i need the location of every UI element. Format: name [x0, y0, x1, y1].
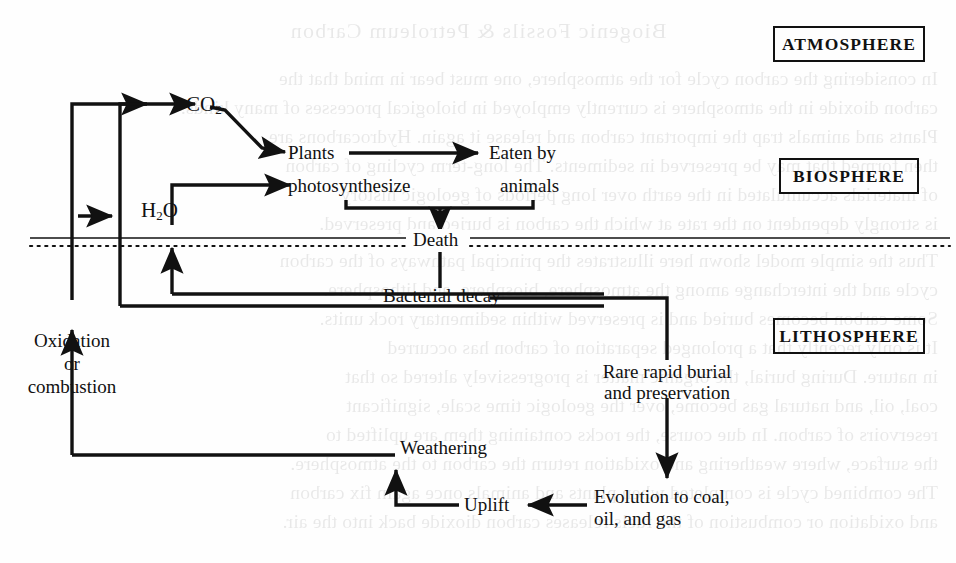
node-co2: CO2 [186, 94, 222, 120]
sphere-box-lithosphere: LITHOSPHERE [773, 318, 925, 354]
bracket-to-death [346, 200, 533, 208]
sphere-box-atmosphere: ATMOSPHERE [773, 26, 925, 62]
flow-uplift-to-weathering [396, 470, 459, 505]
node-rare-rapid-burial-line2: and preservation [577, 382, 757, 403]
node-bacterial-decay: Bacterial decay [383, 285, 501, 306]
sphere-box-biosphere: BIOSPHERE [779, 158, 919, 194]
node-weathering: Weathering [400, 437, 487, 458]
co2-subscript: 2 [215, 102, 222, 117]
node-death: Death [409, 229, 462, 250]
sphere-label-lithosphere: LITHOSPHERE [779, 326, 919, 347]
sphere-label-atmosphere: ATMOSPHERE [782, 34, 916, 55]
node-oxidation-line1: Oxidation [10, 330, 134, 351]
node-evolution-to-coal-line2: oil, and gas [594, 508, 681, 529]
flow-oxidation-to-co2 [72, 104, 147, 300]
node-h2o: H2O [141, 200, 178, 226]
node-eaten-by-animals-line2: animals [500, 175, 559, 196]
node-oxidation-line3: combustion [10, 376, 134, 397]
node-plants: Plants [288, 142, 334, 163]
node-uplift: Uplift [464, 494, 509, 515]
node-photosynthesize: photosynthesize [288, 175, 410, 196]
carbon-cycle-linework [0, 0, 956, 563]
node-rare-rapid-burial-line1: Rare rapid burial [577, 361, 757, 382]
node-evolution-to-coal-line1: Evolution to coal, [594, 486, 730, 507]
flow-h2o-to-photosynthesize [172, 185, 290, 225]
node-eaten-by-animals-line1: Eaten by [489, 142, 556, 163]
diagram-page: Biogenic Fossils & Petroleum Carbon In c… [0, 0, 956, 563]
sphere-label-biosphere: BIOSPHERE [793, 166, 905, 187]
node-oxidation-line2: or [10, 353, 134, 374]
